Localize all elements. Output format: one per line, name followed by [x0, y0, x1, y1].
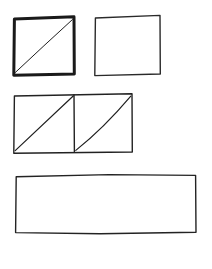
hand-drawn-diagram — [0, 0, 212, 269]
sketch-canvas — [0, 0, 212, 269]
